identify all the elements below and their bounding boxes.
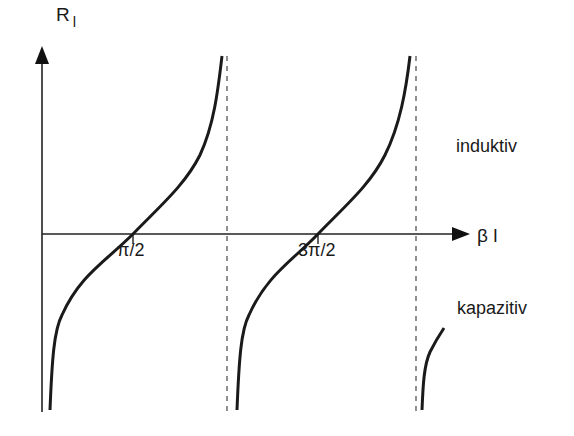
- region-label-capacitive: kapazitiv: [457, 298, 527, 319]
- curve-branch-1: [50, 56, 222, 410]
- y-axis-label: Rl: [56, 4, 76, 30]
- tick-label-pi-half: π/2: [117, 240, 144, 261]
- x-axis-label: β l: [477, 225, 497, 247]
- region-label-inductive: induktiv: [456, 136, 517, 157]
- y-axis-label-main: R: [56, 4, 70, 25]
- y-axis-label-subscript: l: [73, 13, 76, 30]
- curve-branch-2: [237, 56, 410, 410]
- tangent-plot: [0, 0, 574, 436]
- curve-branch-3: [422, 328, 444, 410]
- y-axis-arrow-icon: [35, 46, 49, 64]
- tick-label-3pi-half: 3π/2: [298, 240, 335, 261]
- x-axis-arrow-icon: [452, 227, 470, 241]
